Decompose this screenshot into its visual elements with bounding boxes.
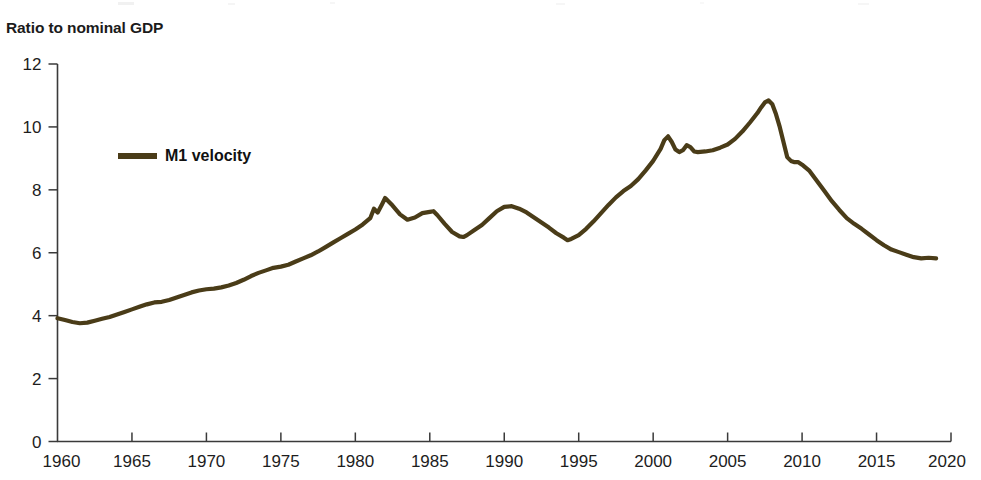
- chart-figure: Ratio to nominal GDP 024681012 196019651…: [0, 0, 981, 480]
- y-tick-group: 024681012: [23, 55, 58, 452]
- y-tick-label: 6: [32, 244, 41, 263]
- legend-label-m1-velocity: M1 velocity: [165, 147, 251, 165]
- y-tick-label: 12: [23, 55, 42, 74]
- y-tick-label: 0: [32, 433, 41, 452]
- x-tick-label: 1970: [188, 452, 226, 471]
- series-line-m1-velocity: [58, 100, 937, 323]
- x-tick-label: 1965: [113, 452, 151, 471]
- x-tick-label: 1960: [43, 452, 81, 471]
- x-tick-label: 1990: [485, 452, 523, 471]
- x-tick-label: 2010: [783, 452, 821, 471]
- y-tick-label: 8: [32, 181, 41, 200]
- x-tick-label: 2005: [709, 452, 747, 471]
- line-chart-plot: 024681012 196019651970197519801985199019…: [0, 0, 981, 480]
- x-tick-label: 1980: [336, 452, 374, 471]
- y-tick-label: 4: [32, 307, 41, 326]
- x-tick-label: 2020: [928, 452, 966, 471]
- y-axis-group: 024681012: [23, 55, 58, 452]
- y-tick-label: 10: [23, 118, 42, 137]
- data-series-group: [58, 100, 937, 323]
- x-axis-group: 1960196519701975198019851990199520002005…: [43, 433, 966, 471]
- x-tick-label: 1995: [560, 452, 598, 471]
- x-tick-label: 1985: [411, 452, 449, 471]
- x-tick-group: 1960196519701975198019851990199520002005…: [43, 433, 966, 471]
- x-tick-label: 1975: [262, 452, 300, 471]
- x-tick-label: 2000: [634, 452, 672, 471]
- x-tick-label: 2015: [858, 452, 896, 471]
- y-tick-label: 2: [32, 370, 41, 389]
